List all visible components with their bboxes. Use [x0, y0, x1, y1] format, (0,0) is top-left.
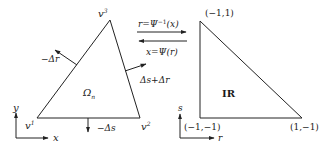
- region-ir-label: IR: [222, 88, 236, 99]
- normal-bottom-label: −Δs: [97, 123, 116, 133]
- reference-element: (−1,1) (−1,−1) (1,−1) IR s r: [178, 8, 319, 143]
- region-omega-label: Ωn: [82, 87, 95, 100]
- vertex-v2-label: v2: [141, 120, 151, 132]
- vertex-bottom-right-label: (1,−1): [290, 122, 319, 132]
- x-axis-label: x: [53, 132, 59, 143]
- normal-right-label: Δs+Δr: [139, 75, 170, 85]
- mapping-diagram: v3 v1 v2 Ωn −Δr Δs+Δr −Δs y x r=Ψ−1(x) x: [0, 0, 326, 150]
- y-axis-label: y: [12, 102, 19, 113]
- vertex-v3-label: v3: [98, 7, 108, 19]
- forward-map-label: r=Ψ−1(x): [138, 18, 179, 30]
- vertex-bottom-left-label: (−1,−1): [184, 122, 220, 132]
- r-axis-label: r: [218, 133, 223, 143]
- physical-triangle: [37, 20, 140, 118]
- vertex-top-label: (−1,1): [205, 8, 234, 18]
- inverse-map-label: x=Ψ(r): [146, 47, 178, 57]
- normal-left-label: −Δr: [41, 54, 60, 64]
- normal-right-arrow: [125, 64, 146, 71]
- s-axis-label: s: [178, 103, 183, 113]
- vertex-v1-label: v1: [25, 119, 34, 131]
- mapping: r=Ψ−1(x) x=Ψ(r): [137, 18, 187, 58]
- reference-triangle: [200, 21, 302, 118]
